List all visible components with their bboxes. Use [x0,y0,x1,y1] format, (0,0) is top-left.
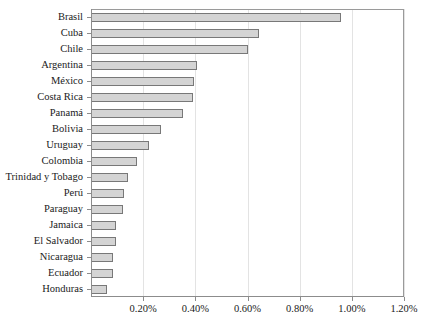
bar-row [91,205,404,214]
x-axis-label-0.60%: 0.60% [234,303,261,314]
y-axis-label-argentina: Argentina [41,59,83,70]
bar-row [91,221,404,230]
bar-row [91,237,404,246]
x-axis-label-0.80%: 0.80% [286,303,313,314]
bar [91,109,183,118]
bar-row [91,173,404,182]
plot-area [91,9,404,297]
y-axis-label-bolivia: Bolivia [52,123,83,134]
y-axis-label-jamaica: Jamaica [49,219,83,230]
bar [91,285,107,294]
bar-row [91,141,404,150]
gridline-1.20% [404,9,405,297]
bar [91,205,123,214]
y-axis-label-perú: Perú [64,187,83,198]
x-axis-tick [248,297,249,301]
y-axis-label-el-salvador: El Salvador [34,235,83,246]
bar [91,221,116,230]
bar-row [91,269,404,278]
y-axis-label-trinidad-y-tobago: Trinidad y Tobago [6,171,83,182]
y-axis-label-ecuador: Ecuador [48,267,83,278]
bar-row [91,29,404,38]
bar-row [91,125,404,134]
x-axis-label-1.20%: 1.20% [390,303,417,314]
bar [91,237,116,246]
plot-border-right [403,9,404,297]
x-axis-tick [404,297,405,301]
bar-row [91,77,404,86]
bar [91,29,259,38]
bar [91,77,194,86]
x-axis-tick [143,297,144,301]
bar-series [91,9,404,297]
bar-row [91,253,404,262]
y-axis-label-honduras: Honduras [42,283,83,294]
y-axis-label-costa-rica: Costa Rica [37,91,83,102]
bar-row [91,189,404,198]
bar-row [91,157,404,166]
bar [91,13,341,22]
bar [91,253,113,262]
x-axis-label-0.40%: 0.40% [182,303,209,314]
bar [91,189,124,198]
y-axis-labels: BrasilCubaChileArgentinaMéxicoCosta Rica… [0,9,88,297]
x-axis-label-1.00%: 1.00% [338,303,365,314]
bar [91,173,128,182]
y-axis-label-panamá: Panamá [50,107,83,118]
bar-row [91,93,404,102]
plot-border-top [91,9,404,10]
x-axis: 0.20%0.40%0.60%0.80%1.00%1.20% [91,297,404,325]
bar-chart: BrasilCubaChileArgentinaMéxicoCosta Rica… [0,0,431,325]
bar [91,269,113,278]
x-axis-tick [352,297,353,301]
plot-border-left [91,9,92,297]
y-axis-label-brasil: Brasil [58,11,83,22]
y-axis-label-cuba: Cuba [61,27,83,38]
bar [91,93,193,102]
bar-row [91,45,404,54]
y-axis-label-chile: Chile [60,43,83,54]
x-axis-tick [300,297,301,301]
bar [91,157,137,166]
y-axis-label-colombia: Colombia [42,155,83,166]
bar [91,45,248,54]
bar [91,141,149,150]
y-axis-label-méxico: México [51,75,83,86]
bar [91,125,161,134]
y-axis-label-uruguay: Uruguay [46,139,83,150]
bar [91,61,197,70]
x-axis-label-0.20%: 0.20% [130,303,157,314]
bar-row [91,13,404,22]
bar-row [91,109,404,118]
x-axis-tick [195,297,196,301]
y-axis-label-nicaragua: Nicaragua [40,251,83,262]
bar-row [91,61,404,70]
y-axis-label-paraguay: Paraguay [44,203,83,214]
bar-row [91,285,404,294]
